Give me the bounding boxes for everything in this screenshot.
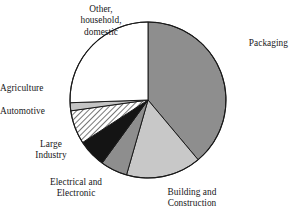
pie-label-building-and-construction: Building and Construction (142, 187, 242, 210)
pie-label-electrical-and-electronic: Electrical and Electronic (26, 177, 126, 200)
pie-label-large-industry: Large Industry (16, 139, 86, 162)
pie-label-automotive: Automotive (0, 106, 66, 117)
pie-label-packaging: Packaging (228, 38, 288, 49)
pie-chart: Other, household, domestic Agriculture A… (0, 0, 289, 222)
pie-label-other-household-domestic: Other, household, domestic (58, 4, 144, 38)
pie-slice-group (70, 22, 226, 178)
pie-label-agriculture: Agriculture (0, 83, 64, 94)
